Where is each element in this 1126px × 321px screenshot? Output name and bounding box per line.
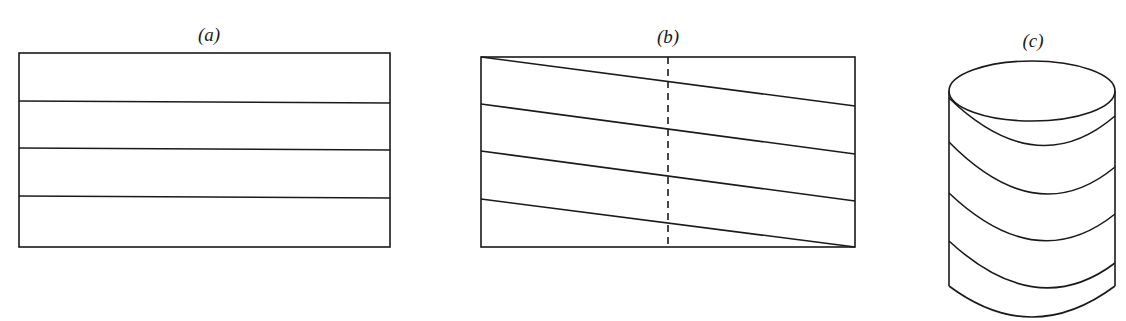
panel-a-striped-rectangle <box>19 53 390 247</box>
helix-turn <box>949 142 1115 194</box>
figure-canvas <box>0 0 1126 321</box>
horizontal-line <box>19 196 390 198</box>
helix-turn <box>949 241 1115 288</box>
horizontal-line <box>19 148 390 150</box>
horizontal-line <box>19 101 390 103</box>
cylinder-bottom-arc <box>949 286 1115 317</box>
cylinder-top-ellipse <box>949 61 1115 121</box>
panel-b-slanted-rectangle <box>481 57 855 247</box>
helix-turn <box>949 193 1115 241</box>
panel-c-helix-cylinder <box>949 61 1115 317</box>
